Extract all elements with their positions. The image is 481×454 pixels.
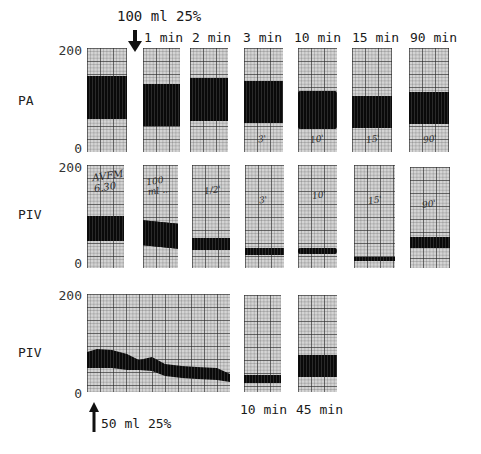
piv-strip-10min: 10' [298, 165, 337, 268]
piv-strip-10min-b [244, 295, 281, 392]
pa-trace [352, 96, 392, 128]
piv-strip-continuous [87, 294, 230, 392]
pa-strip-2min [190, 48, 228, 152]
piv-strip-45min [298, 295, 337, 392]
pa-trace [87, 76, 127, 119]
axis-tick-200: 200 [48, 288, 82, 303]
axis-tick-200: 200 [48, 160, 82, 175]
piv-trace [192, 238, 230, 250]
axis-tick-0: 0 [48, 256, 82, 271]
piv-strip-90min: 90' [410, 167, 450, 268]
piv-strip-baseline: AVFM 6.30 [87, 165, 124, 268]
axis-tick-200: 200 [48, 43, 82, 58]
pa-strip-15min: 15' [352, 48, 392, 152]
time-label-15min: 15 min [352, 30, 399, 45]
time-label-10min: 10 min [294, 30, 341, 45]
pa-strip-baseline [87, 48, 127, 152]
piv-strip-15min: 15' [354, 165, 395, 268]
handwritten-note: 10' [309, 133, 324, 145]
pa-trace [190, 78, 228, 121]
arrow-up-icon [89, 402, 99, 436]
piv-trace [244, 375, 281, 383]
time-label-45min: 45 min [296, 402, 343, 417]
time-label-90min: 90 min [410, 30, 457, 45]
axis-tick-0: 0 [48, 141, 82, 156]
pa-strip-90min: 90' [409, 48, 449, 152]
row-label-piv-2: PIV [18, 345, 41, 360]
handwritten-note: 3' [258, 194, 268, 205]
handwritten-note: 100 ml ... [146, 173, 178, 197]
piv-strip-2min: 1/2' [192, 165, 230, 268]
injection-label-bottom: 50 ml 25% [101, 416, 171, 431]
pa-strip-10min: 10' [298, 48, 337, 152]
piv-trace [410, 237, 450, 248]
handwritten-note: 15' [367, 194, 382, 206]
axis-tick-0: 0 [48, 386, 82, 401]
pa-trace [143, 84, 180, 126]
piv-strip-3min: 3' [245, 165, 284, 268]
pa-strip-3min: 3' [244, 48, 283, 152]
piv-strip-1min: 100 ml ... [143, 165, 178, 268]
piv-continuous-trace [87, 294, 230, 392]
handwritten-note: 1/2' [203, 184, 221, 196]
arrow-down-icon [128, 30, 142, 56]
handwritten-note: 15' [365, 133, 380, 145]
row-label-pa: PA [18, 93, 34, 108]
row-label-piv: PIV [18, 207, 41, 222]
handwritten-note: 90' [422, 133, 437, 145]
piv-trace [245, 248, 284, 255]
handwritten-note: 10' [311, 189, 326, 201]
pa-trace [409, 92, 449, 124]
time-label-2min: 2 min [192, 30, 231, 45]
pa-trace [298, 91, 337, 129]
piv-trace [298, 248, 337, 254]
piv-trace [87, 216, 124, 241]
piv-trace [298, 355, 337, 377]
pa-trace [244, 81, 283, 123]
piv-trace [354, 257, 395, 261]
time-label-1min: 1 min [144, 30, 183, 45]
handwritten-note: 3' [257, 133, 267, 144]
handwritten-note: 90' [421, 198, 436, 210]
time-label-10min-b: 10 min [240, 402, 287, 417]
time-label-3min: 3 min [243, 30, 282, 45]
piv-trace [143, 220, 178, 249]
injection-label-top: 100 ml 25% [117, 8, 201, 24]
handwritten-note: AVFM 6.30 [92, 168, 124, 194]
pa-strip-1min [143, 48, 180, 152]
